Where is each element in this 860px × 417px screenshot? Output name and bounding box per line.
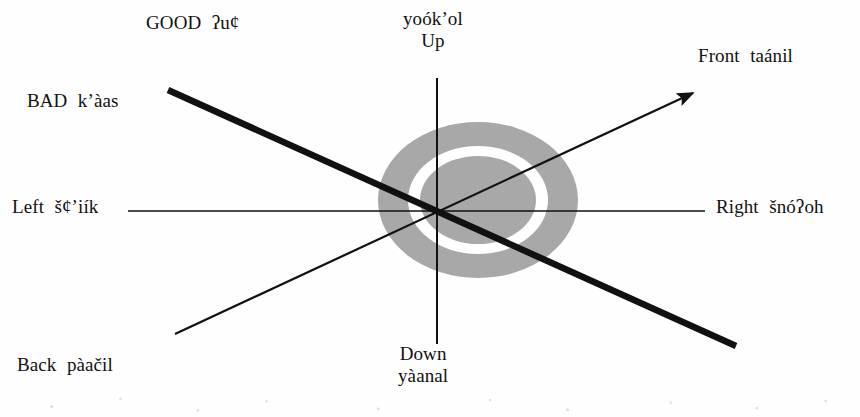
label-back-gloss: pàačil [67,354,113,375]
label-front-gloss: taánil [750,45,793,66]
label-up-gloss: yoók’ol [403,8,463,30]
label-bad: BADk’àas [27,90,118,112]
label-up-english: Up [403,30,463,52]
label-front-english: Front [698,45,740,66]
label-right-english: Right [716,196,759,217]
label-good-gloss: ʔu¢ [212,12,240,33]
label-bad-english: BAD [27,90,67,111]
label-back: Backpàačil [17,354,113,376]
label-left: Leftš¢’iík [12,196,98,218]
label-front: Fronttaánil [698,45,793,67]
label-right-gloss: šnóʔoh [769,196,823,217]
label-down-english: Down [398,343,448,365]
label-up: yoók’ol Up [403,8,463,53]
figure-canvas: GOODʔu¢ BADk’àas yoók’ol Up Fronttaánil … [0,0,860,417]
label-good-english: GOOD [146,12,201,33]
label-left-gloss: š¢’iík [54,196,98,217]
label-bad-gloss: k’àas [78,90,119,111]
label-right: Rightšnóʔoh [716,196,824,218]
label-left-english: Left [12,196,44,217]
label-back-english: Back [17,354,56,375]
label-down-gloss: yàanal [398,365,448,387]
label-good: GOODʔu¢ [146,12,239,34]
label-down: Down yàanal [398,343,448,388]
